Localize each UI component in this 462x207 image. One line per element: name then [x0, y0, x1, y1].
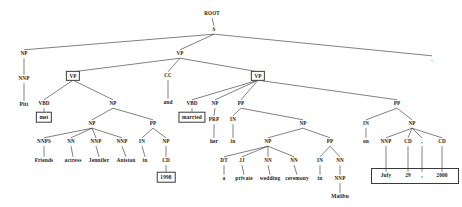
tree-edge [214, 108, 215, 116]
tree-leaf-malibu: Malibu [331, 194, 349, 199]
tree-label-nnp_pitt: NNP [19, 76, 30, 81]
tree-label-in_on: IN [363, 121, 369, 126]
tree-edge [73, 58, 180, 72]
tree-edge [241, 108, 303, 120]
tree-label-vp_left: VP [66, 71, 80, 81]
tree-label-np_her: NP [211, 101, 218, 106]
tree-label-np_inner: NP [88, 121, 95, 126]
tree-label-pp_in98: PP [150, 121, 157, 126]
tree-label-nn_cer: NN [290, 158, 298, 163]
tree-label-np_1998: NP [162, 139, 169, 144]
tree-label-pp_on: PP [394, 101, 401, 106]
tree-label-pp_mal: PP [327, 139, 334, 144]
tree-edge [71, 146, 73, 157]
tree-label-cc: CC [164, 73, 172, 78]
tree-label-vp_top: VP [176, 51, 183, 56]
parse-tree-diagram: ROOTSNPVP.NNPVPCCVPPittVBDNPandVBDNPPPPP… [0, 0, 462, 207]
tree-leaf-on: on [363, 139, 369, 144]
tree-edge [242, 165, 244, 175]
tree-label-nnps: NNPS [37, 139, 51, 144]
tree-edge [215, 80, 258, 100]
tree-edge [142, 146, 145, 157]
tree-label-nnp_mal: NNP [335, 176, 346, 181]
tree-leaf-d29: 29 [405, 173, 411, 178]
tree-label-np_obj: NP [109, 101, 116, 106]
tree-edge [303, 128, 330, 138]
tree-label-np_wed2: NP [264, 139, 271, 144]
tree-leaf-in_leaf1: in [231, 139, 236, 144]
tree-label-np_wed: NP [299, 121, 306, 126]
tree-leaf-d2000: 2000 [436, 173, 447, 178]
tree-leaf-in_leaf3: in [318, 176, 323, 181]
tree-label-np1: NP [20, 51, 27, 56]
tree-label-nn_mal: NN [336, 158, 344, 163]
tree-label-in_1998: IN [139, 139, 145, 144]
tree-edge [71, 128, 92, 138]
tree-edge [241, 80, 258, 100]
tree-label-vp_right: VP [251, 71, 265, 81]
tree-edge [268, 146, 294, 157]
tree-label-in_in: IN [230, 117, 236, 122]
tree-edge [92, 128, 122, 138]
tree-leaf-actress: actress [65, 158, 82, 163]
tree-leaf-jennifer: Jennifer [89, 158, 109, 163]
tree-edge [44, 80, 73, 100]
tree-label-nn_wed: NN [264, 158, 272, 163]
tree-edge [330, 146, 340, 157]
tree-leaf-aniston: Aniston [116, 158, 135, 163]
tree-edge [233, 108, 241, 116]
tree-edge [294, 165, 297, 175]
tree-edge [180, 58, 258, 72]
tree-label-vbd_marr: VBD [186, 101, 197, 106]
tree-label-cd_node: CD [162, 158, 170, 163]
tree-edge [212, 18, 214, 26]
tree-leaf-her: her [210, 139, 218, 144]
tree-edge [397, 108, 412, 120]
tree-leaf-a: a [223, 176, 226, 181]
tree-edge [192, 80, 258, 100]
tree-label-nnp_july: NNP [381, 139, 392, 144]
tree-leaf-in_leaf2: in [143, 158, 148, 163]
tree-edge [412, 128, 442, 138]
tree-leaf-wedding: wedding [260, 176, 281, 181]
tree-leaf-married: married [178, 112, 205, 123]
tree-edge [113, 108, 153, 120]
tree-label-root: ROOT [204, 11, 220, 16]
tree-leaf-july: July [381, 173, 392, 178]
tree-label-prp: PRP [209, 117, 219, 122]
tree-leaf-y1998: 1998 [157, 172, 176, 183]
tree-edge [96, 146, 99, 157]
tree-label-cd_29: CD [404, 139, 412, 144]
tree-label-np_date: NP [408, 121, 415, 126]
tree-edge [386, 128, 412, 138]
tree-edge [142, 128, 153, 138]
tree-edge [168, 58, 180, 72]
tree-edge [73, 80, 113, 100]
tree-label-pp_in1: PP [238, 101, 245, 106]
tree-leaf-private: private [235, 176, 253, 181]
tree-edge [320, 146, 330, 157]
tree-edge [92, 108, 113, 120]
tree-leaf-ceremony: ceremony [285, 176, 309, 181]
tree-label-in_mal: IN [317, 158, 323, 163]
tree-label-s: S [213, 27, 216, 32]
tree-edge [44, 128, 92, 138]
tree-edge [268, 128, 303, 138]
tree-label-nnp_ani: NNP [117, 139, 128, 144]
tree-label-period: . [431, 57, 433, 62]
tree-label-cd_2000: CD [438, 139, 446, 144]
tree-label-vbd_met: VBD [38, 101, 49, 106]
tree-leaf-met: met [36, 112, 52, 123]
tree-edge [153, 128, 166, 138]
tree-leaf-comma: , [421, 173, 423, 178]
tree-leaf-friends: Friends [35, 158, 54, 163]
tree-label-nnp_jen: NNP [91, 139, 102, 144]
tree-label-comma_tag: , [421, 139, 422, 144]
tree-edge [122, 146, 126, 157]
tree-label-dt: DT [220, 158, 227, 163]
tree-leaf-and: and [163, 100, 172, 105]
tree-edge [268, 165, 270, 175]
tree-edge [92, 128, 96, 138]
tree-leaf-pitt: Pitt [20, 102, 29, 107]
tree-edge [366, 108, 397, 120]
